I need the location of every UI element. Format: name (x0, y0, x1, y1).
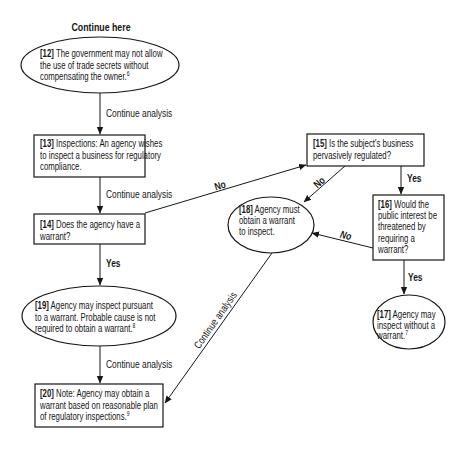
node-18-line-3: to inspect. (239, 226, 300, 237)
node-20-line-1: [20] Note: Agency may obtain a (40, 388, 158, 400)
footnote-marker: 8 (133, 322, 136, 329)
node-15-number: [15] (313, 138, 327, 149)
node-20-text: [20] Note: Agency may obtain a warrant b… (40, 388, 158, 423)
node-19-line-1: [19] Agency may inspect pursuant (35, 300, 156, 312)
footnote-marker: 6 (127, 70, 130, 77)
node-20-line-3: of regulatory inspections.9 (40, 411, 158, 423)
edge-label-13-14: Continue analysis (106, 188, 172, 200)
flowchart-canvas: Continue here [12] The government may no… (0, 0, 469, 451)
node-16-line-3: threatened by (378, 221, 437, 232)
node-13-text: [13] Inspections: An agency wishes to in… (40, 138, 162, 173)
start-label: Continue here (70, 21, 132, 34)
node-18-number: [18] (239, 204, 253, 215)
edge-18-20-arrow (165, 253, 272, 403)
node-16-line-4: requiring a (378, 233, 437, 244)
edge-label-12-13: Continue analysis (106, 107, 172, 119)
footnote-marker: 7 (405, 329, 408, 336)
node-19-number: [19] (35, 300, 49, 311)
node-16-text: [16] Would the public interest be threat… (378, 199, 437, 255)
node-13-line-1: [13] Inspections: An agency wishes (40, 138, 162, 150)
footnote-marker: 9 (127, 410, 130, 417)
node-12-line-1: [12] The government may not allow (40, 48, 163, 60)
node-15-line-1: [15] Is the subject's business (313, 138, 413, 150)
node-16-number: [16] (378, 199, 392, 210)
node-17-number: [17] (377, 309, 391, 320)
node-19-text: [19] Agency may inspect pursuant to a wa… (35, 300, 156, 335)
node-16-line-2: public interest be (378, 210, 437, 221)
edge-label-16-17: Yes (408, 271, 422, 283)
edge-label-19-20: Continue analysis (106, 358, 172, 370)
node-14-number: [14] (40, 219, 54, 230)
node-19-line-2: to a warrant. Probable cause is not (35, 312, 156, 324)
node-14-line-1: [14] Does the agency have a (40, 219, 140, 231)
node-14-text: [14] Does the agency have a warrant? (40, 219, 140, 242)
node-12-line-2: the use of trade secrets without (40, 60, 163, 72)
edge-label-15-16: Yes (407, 172, 421, 184)
node-17-line-1: [17] Agency may (377, 310, 436, 321)
node-18-text: [18] Agency must obtain a warrant to ins… (239, 204, 300, 237)
node-20-number: [20] (40, 388, 54, 399)
node-20-line-2: warrant based on reasonable plan (40, 400, 158, 412)
node-15-text: [15] Is the subject's business pervasive… (313, 138, 413, 161)
node-16-line-1: [16] Would the (378, 199, 437, 210)
node-12-number: [12] (40, 48, 54, 59)
node-13-line-2: to inspect a business for regulatory (40, 150, 162, 162)
node-15-line-2: pervasively regulated? (313, 150, 413, 162)
edge-label-14-19: Yes (106, 257, 120, 269)
node-13-number: [13] (40, 138, 54, 149)
node-18-line-2: obtain a warrant (239, 215, 300, 226)
node-19-line-3: required to obtain a warrant.8 (35, 323, 156, 335)
node-12-text: [12] The government may not allow the us… (40, 48, 163, 83)
node-13-line-3: compliance. (40, 161, 162, 173)
node-18-line-1: [18] Agency must (239, 204, 300, 215)
node-17-text: [17] Agency may inspect without a warran… (377, 310, 436, 342)
node-17-line-3: warrant.7 (377, 331, 436, 342)
node-14-line-2: warrant? (40, 231, 140, 243)
node-12-line-3: compensating the owner.6 (40, 71, 163, 83)
node-16-line-5: warrant? (378, 244, 437, 255)
